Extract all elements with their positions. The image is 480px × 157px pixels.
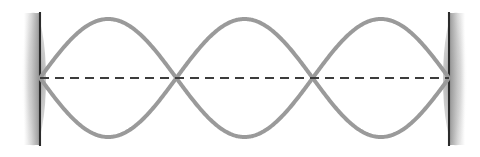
standing-wave-diagram: [0, 0, 480, 157]
standing-wave-figure: [0, 0, 480, 157]
left-wall-shadow: [24, 13, 40, 145]
right-wall-shadow: [449, 13, 465, 145]
